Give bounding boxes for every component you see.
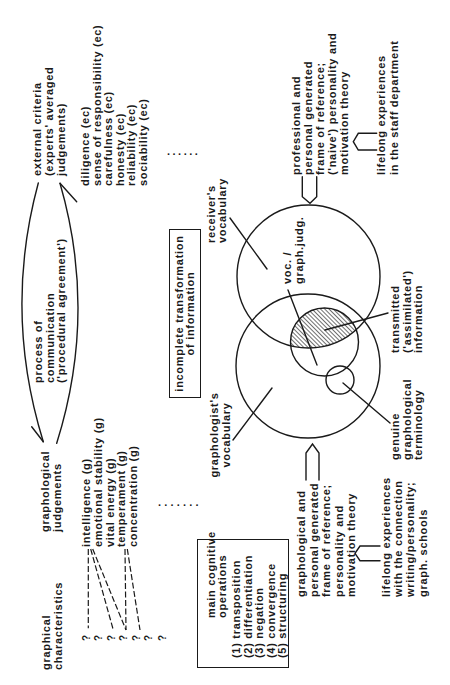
- label-line: frame of reference;: [320, 483, 333, 597]
- heading-line: characteristics: [52, 582, 64, 670]
- judgements-continuation-dots: .......: [158, 496, 202, 508]
- graphologist-experience-arrow-icon: [355, 546, 380, 561]
- graphologist-frame-arrow-icon: [306, 444, 319, 480]
- genuine-terminology-circle: [326, 366, 354, 394]
- label-line: motivation theory: [345, 483, 358, 597]
- label-line: terminology: [413, 379, 425, 460]
- label-line: process of: [33, 238, 45, 383]
- graphologist-frame-label: graphological and personal generated fra…: [295, 483, 358, 597]
- judgement-item: concentration (g): [128, 417, 140, 547]
- transmitted-information-label: transmitted ('assimilated') information: [390, 270, 425, 353]
- graphical-characteristics-heading: graphical characteristics: [40, 582, 64, 670]
- heading-line: graphical: [40, 582, 52, 670]
- unknown-characteristic-marker: ?: [157, 635, 169, 641]
- receiver-vocabulary-pointer: [230, 218, 267, 269]
- unknown-characteristic-marker: ?: [106, 635, 118, 641]
- label-line: personal generated: [302, 32, 314, 175]
- label-line: graphological and: [295, 483, 308, 597]
- label-line: writing/personality;: [404, 477, 416, 597]
- mapping-dashed-lines: [88, 549, 140, 630]
- label-line: motivation theory: [338, 32, 350, 175]
- label-line: vocabulary: [220, 385, 232, 485]
- label-line: lifelong experiences: [380, 477, 392, 597]
- criteria-continuation-dots: ......: [167, 145, 200, 157]
- heading-line: judgements): [55, 67, 67, 176]
- incomplete-transformation-box: incomplete transformation of information: [169, 229, 201, 398]
- heading-line: judgements: [52, 451, 64, 532]
- label-line: genuine: [390, 379, 402, 460]
- label-line: personality and: [333, 483, 346, 597]
- genuine-terminology-pointer: [343, 383, 390, 423]
- label-line: lifelong experiences: [375, 40, 388, 175]
- genuine-terminology-label: genuine graphological terminology: [390, 379, 425, 460]
- heading-line: (experts' averaged: [43, 67, 55, 176]
- label-line: graph. schools: [417, 477, 429, 597]
- receiver-experience-arrow-icon: [353, 133, 376, 150]
- graphologist-vocabulary-pointer: [233, 388, 272, 440]
- operation-item: (5) structuring: [277, 555, 289, 658]
- criterion-item: sociability (ec): [138, 25, 150, 186]
- graphologist-experience-label: lifelong experiences with the connection…: [380, 477, 429, 597]
- unknown-characteristic-marker: ?: [143, 635, 155, 641]
- title-line: operations: [217, 531, 228, 618]
- unknown-characteristic-marker: ?: [118, 635, 130, 641]
- label-line: graphologist's: [208, 385, 220, 485]
- dashed-link: [127, 549, 140, 630]
- cognitive-operations-title: main cognitive operations: [206, 531, 228, 618]
- criterion-item: diligence (ec): [80, 25, 92, 186]
- overlap-label: voc. / graph.judg.: [281, 216, 305, 284]
- label-line: with the connection: [392, 477, 404, 597]
- label-line: information: [413, 270, 425, 353]
- external-criteria-heading: external criteria (experts' averaged jud…: [31, 67, 67, 176]
- unknown-characteristic-marker: ?: [81, 635, 93, 641]
- box-line: of information: [185, 230, 196, 397]
- cognitive-operations-list: (1) transposition (2) differentiation (3…: [231, 555, 289, 658]
- graphological-judgements-list: intelligence (g) emotional stability (g)…: [81, 417, 140, 547]
- judgement-item: emotional stability (g): [93, 417, 105, 547]
- label-line: personal generated: [308, 483, 321, 597]
- process-of-communication-label: process of communication ('procedural ag…: [33, 238, 68, 383]
- graphological-judgements-heading: graphological judgements: [40, 451, 63, 532]
- receiver-frame-arrow-icon: [302, 177, 316, 204]
- receiver-experience-label: lifelong experiences in the staff depart…: [375, 40, 401, 175]
- label-line: voc. /: [281, 216, 293, 284]
- operation-item: (3) negation: [254, 555, 266, 658]
- label-line: professional and: [290, 32, 302, 175]
- unknown-characteristic-marker: ?: [93, 635, 105, 641]
- external-criteria-list: diligence (ec) sense of responsibility (…: [80, 25, 150, 186]
- operation-item: (1) transposition: [231, 555, 243, 658]
- heading-line: graphological: [40, 451, 52, 532]
- unknown-characteristic-marker: ?: [131, 635, 143, 641]
- rotated-diagram: graphical characteristics ? ? ? ? ? ? ? …: [0, 0, 450, 685]
- label-line: transmitted: [390, 270, 402, 353]
- label-line: graph.judg.: [293, 216, 305, 284]
- graphologist-vocabulary-label: graphologist's vocabulary: [208, 385, 232, 485]
- heading-line: external criteria: [31, 67, 43, 176]
- label-line: ('naive') personality and: [326, 32, 338, 175]
- label-line: in the staff department: [388, 40, 401, 175]
- label-line: ('procedural agreement'): [56, 238, 68, 383]
- label-line: vocabulary: [217, 178, 228, 243]
- receiver-vocabulary-label: receiver's vocabulary: [206, 178, 227, 243]
- dashed-link: [125, 549, 126, 630]
- receiver-frame-label: professional and personal generated fram…: [290, 32, 350, 175]
- label-line: frame of reference;: [314, 32, 326, 175]
- label-line: receiver's: [206, 178, 217, 243]
